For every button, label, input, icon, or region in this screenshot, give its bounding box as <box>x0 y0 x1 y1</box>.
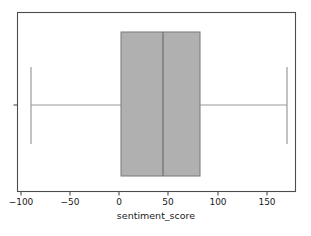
x-tick-label--100: −100 <box>9 197 34 207</box>
x-tick-label-150: 150 <box>258 197 275 207</box>
x-tick-label-0: 0 <box>116 197 122 207</box>
figure-canvas: −100 −50 0 50 100 150 sentiment_score <box>0 0 311 236</box>
x-tick-label-50: 50 <box>162 197 174 207</box>
x-tick-label-100: 100 <box>209 197 226 207</box>
x-tick-label--50: −50 <box>61 197 80 207</box>
boxplot-chart: −100 −50 0 50 100 150 sentiment_score <box>0 0 311 236</box>
x-axis-label: sentiment_score <box>117 210 195 221</box>
iqr-box[interactable] <box>121 32 200 176</box>
